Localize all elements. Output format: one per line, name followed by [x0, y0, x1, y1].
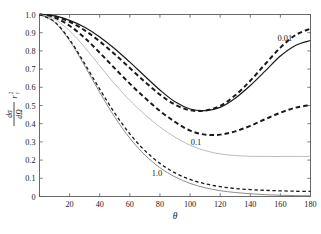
y-tick-label: 0 — [31, 193, 35, 202]
y-axis-denominator: dΩ — [15, 109, 24, 119]
data-curves — [40, 15, 311, 196]
x-tick-label: 100 — [184, 200, 196, 209]
y-tick-label: 0.8 — [25, 47, 35, 56]
curve-0-01 — [40, 15, 311, 111]
y-tick-label: 0.6 — [25, 83, 35, 92]
y-axis-tick-labels: 00.10.20.30.40.50.60.70.80.91.0 — [25, 11, 35, 202]
y-tick-label: 1.0 — [25, 11, 35, 20]
y-tick-label: 0.7 — [25, 65, 35, 74]
x-axis-tick-labels: 20406080100120140160180 — [66, 200, 317, 209]
y-axis-divisor-superscript: 2 — [8, 91, 14, 94]
label-10: 1.0 — [152, 169, 162, 178]
y-axis-title: dσ dΩ r c 2 — [5, 91, 24, 126]
y-tick-label: 0.5 — [25, 102, 35, 111]
x-tick-label: 40 — [96, 200, 104, 209]
curve-1-0 — [40, 15, 311, 192]
y-tick-label: 0.4 — [25, 120, 35, 129]
label-01: 0.1 — [191, 138, 201, 147]
y-tick-label: 0.9 — [25, 29, 35, 38]
x-tick-label: 140 — [244, 200, 256, 209]
x-tick-label: 20 — [66, 200, 74, 209]
y-axis-numerator: dσ — [5, 110, 14, 118]
x-tick-label: 80 — [156, 200, 164, 209]
x-tick-label: 160 — [274, 200, 286, 209]
y-axis-divisor: r — [10, 95, 19, 98]
scattering-cross-section-chart: 20406080100120140160180 00.10.20.30.40.5… — [0, 0, 321, 234]
y-tick-label: 0.3 — [25, 138, 35, 147]
x-axis-title: θ — [173, 211, 178, 221]
x-tick-label: 180 — [304, 200, 316, 209]
y-tick-label: 0.2 — [25, 156, 35, 165]
y-tick-label: 0.1 — [25, 174, 35, 183]
label-001: 0.01 — [278, 34, 293, 43]
curve-0-1 — [40, 15, 311, 136]
curve-0-1 — [40, 15, 311, 157]
figure-container: 20406080100120140160180 00.10.20.30.40.5… — [0, 0, 321, 234]
y-axis-divisor-subscript: c — [14, 91, 20, 94]
x-tick-label: 120 — [214, 200, 226, 209]
x-tick-label: 60 — [126, 200, 134, 209]
curve-0-01 — [40, 15, 311, 112]
